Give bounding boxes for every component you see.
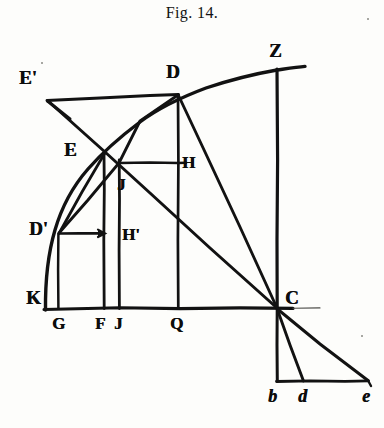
ordinate-Z-C (277, 69, 278, 309)
label-f: F (95, 315, 105, 332)
label-b: b (268, 387, 277, 405)
label-g: G (52, 315, 65, 332)
baseline-segment (44, 308, 293, 310)
label-d-lower: d (298, 387, 307, 405)
ordinate-F (104, 153, 105, 309)
base-b-e (277, 381, 369, 382)
label-h: H (182, 154, 195, 171)
eprime-wedge-lower (48, 101, 71, 119)
label-j-inner: J (117, 176, 126, 193)
label-c: C (285, 288, 299, 307)
geometric-diagram (0, 0, 384, 428)
ray-D-C (179, 96, 278, 309)
ray-E-Dprime (59, 152, 106, 234)
ordinate-Q (178, 95, 179, 309)
ray-Eprime-C (48, 101, 278, 309)
label-e-prime: E' (19, 68, 37, 87)
label-e: E (64, 140, 77, 159)
scan-speck (41, 62, 43, 64)
scan-speck (361, 335, 363, 337)
label-j-base: J (114, 315, 123, 332)
figure-container: Fig. 14. (0, 0, 384, 428)
chord-Eprime-D (47, 95, 179, 101)
label-z: Z (269, 41, 282, 60)
label-h-prime: H' (122, 226, 140, 243)
label-d: D (166, 62, 180, 81)
label-q: Q (170, 315, 183, 332)
label-k: K (26, 288, 41, 307)
scan-speck (367, 18, 369, 20)
label-d-prime: D' (29, 219, 48, 238)
label-e-lower: e (362, 387, 370, 405)
